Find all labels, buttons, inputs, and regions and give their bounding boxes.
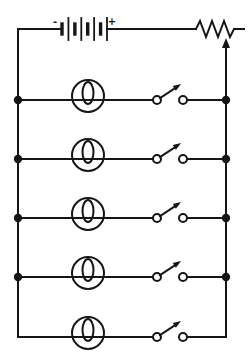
junction-dot-right — [222, 96, 230, 104]
background — [0, 0, 249, 354]
junction-dot-left — [14, 96, 22, 104]
junction-dot-left — [14, 214, 22, 222]
junction-dot-right — [222, 273, 230, 281]
junction-dot-right — [222, 214, 230, 222]
switch-terminal-right — [179, 96, 187, 104]
switch-terminal-right — [179, 333, 187, 341]
battery-plus-label: + — [108, 16, 116, 27]
circuit-diagram: -+ — [0, 0, 249, 354]
switch-terminal-right — [179, 155, 187, 163]
battery-minus-label: - — [53, 16, 57, 27]
schematic-svg: -+ — [0, 0, 249, 354]
junction-dot-right — [222, 155, 230, 163]
junction-dot-left — [14, 155, 22, 163]
junction-dot-left — [14, 273, 22, 281]
switch-terminal-right — [179, 273, 187, 281]
switch-terminal-right — [179, 214, 187, 222]
